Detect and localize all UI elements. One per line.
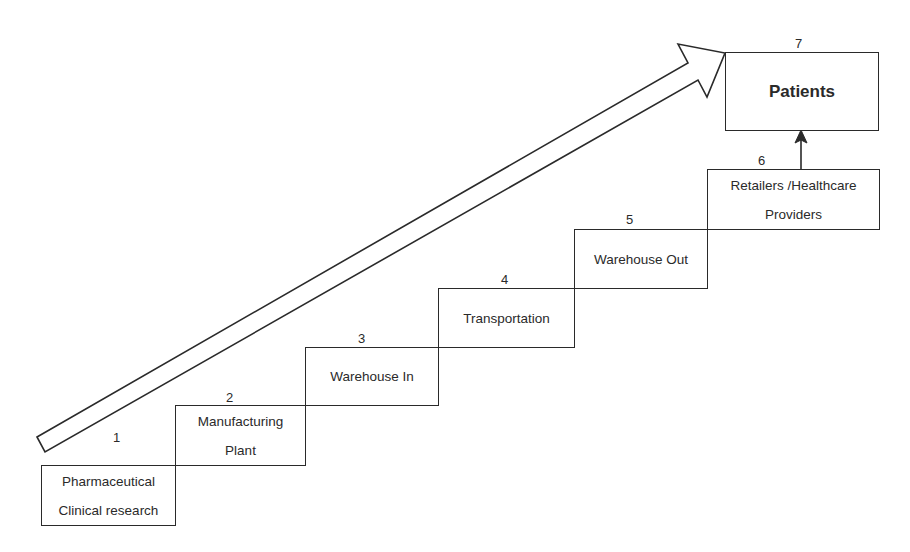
- step-6-label-line-2: Providers: [765, 200, 822, 229]
- step-2-box: Manufacturing Plant: [175, 405, 306, 466]
- step-2-label-line-1: Manufacturing: [198, 407, 284, 436]
- step-7-number: 7: [795, 36, 802, 51]
- step-1-number: 1: [113, 430, 120, 445]
- step-2-number: 2: [226, 390, 233, 405]
- step-4-label: Transportation: [463, 304, 550, 333]
- step-7-label: Patients: [769, 77, 835, 106]
- step-5-box: Warehouse Out: [574, 229, 708, 289]
- step-3-box: Warehouse In: [305, 347, 439, 406]
- step-4-box: Transportation: [438, 288, 575, 348]
- step-1-box: Pharmaceutical Clinical research: [41, 465, 176, 526]
- step-4-number: 4: [501, 272, 508, 287]
- step-2-label-line-2: Plant: [225, 436, 256, 465]
- step-3-label: Warehouse In: [330, 362, 414, 391]
- step-1-label-line-2: Clinical research: [59, 496, 159, 525]
- step-1-label-line-1: Pharmaceutical: [62, 467, 155, 496]
- step-7-box: Patients: [725, 52, 879, 131]
- step-5-number: 5: [626, 212, 633, 227]
- step-3-number: 3: [358, 331, 365, 346]
- step-6-label-line-1: Retailers /Healthcare: [730, 171, 856, 200]
- step-6-box: Retailers /Healthcare Providers: [707, 169, 880, 230]
- step-5-label: Warehouse Out: [594, 245, 688, 274]
- step-6-number: 6: [758, 153, 765, 168]
